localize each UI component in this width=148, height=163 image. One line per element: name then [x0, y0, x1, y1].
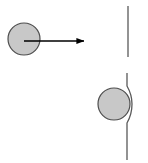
deflected-vertical-line: [127, 73, 132, 160]
panel-after: [98, 73, 132, 160]
contact-ball: [98, 88, 130, 120]
physics-diagram: [0, 0, 148, 163]
figure-container: Ball approaching a vertical line and def…: [0, 0, 148, 163]
moving-ball: [8, 23, 40, 55]
panel-before: [8, 6, 128, 57]
